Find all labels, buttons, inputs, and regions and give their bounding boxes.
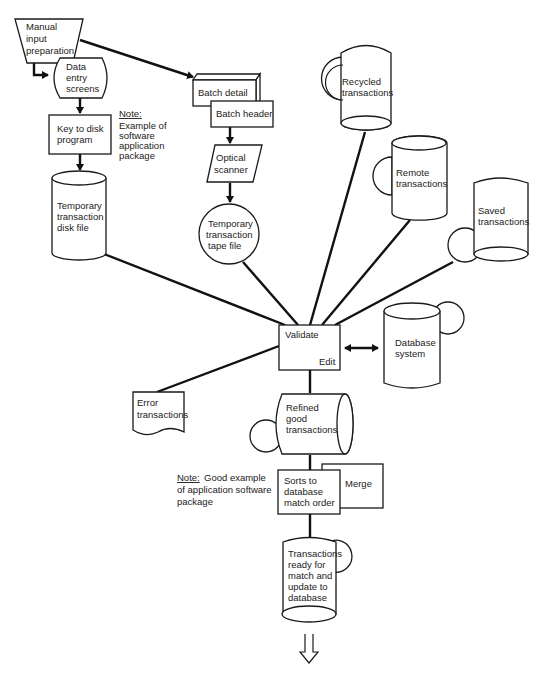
note2-line1: of application software (177, 484, 272, 495)
node-recycled-transactions: Recycled transactions (322, 46, 394, 131)
note2-title: Note: (177, 472, 200, 483)
recycled-line1: Recycled (342, 76, 381, 87)
edge-validate-to-error (157, 346, 279, 392)
node-batch-header: Batch header (211, 101, 273, 127)
key-to-disk-line1: Key to disk (57, 123, 104, 134)
temp-tape-line2: transaction (206, 229, 252, 240)
optical-scanner-line2: scanner (214, 164, 248, 175)
node-saved-transactions: Saved transactions (448, 178, 529, 262)
edit-label: Edit (319, 356, 336, 367)
sorts-line3: match order (284, 497, 335, 508)
validate-label: Validate (285, 329, 319, 340)
sorts-line2: database (284, 486, 323, 497)
note-good-example: Note: Good example of application softwa… (177, 472, 272, 507)
ready-line5: database (288, 592, 327, 603)
temp-disk-line1: Temporary (57, 200, 102, 211)
node-sorts-to-database-match-order: Sorts to database match order (278, 470, 340, 514)
note1-title: Note: (119, 108, 142, 119)
refined-line2: good (286, 413, 307, 424)
refined-line3: transactions (286, 424, 337, 435)
remote-line1: Remote (396, 167, 429, 178)
node-manual-input: Manual input preparation (15, 19, 83, 63)
error-line1: Error (137, 397, 158, 408)
node-optical-scanner: Optical scanner (207, 145, 262, 182)
error-line2: transactions (137, 409, 188, 420)
edge-manual-to-data-entry (34, 63, 48, 75)
note1-line4: package (119, 150, 155, 161)
saved-line2: transactions (478, 216, 529, 227)
temp-disk-line2: transaction (57, 211, 103, 222)
data-entry-line2: entry (66, 72, 87, 83)
node-temp-disk-file: Temporary transaction disk file (52, 171, 106, 260)
ready-line3: match and (288, 570, 332, 581)
manual-input-line1: Manual (26, 21, 57, 32)
temp-tape-line3: tape file (208, 240, 241, 251)
continue-down-arrow-icon (300, 634, 318, 663)
refined-line1: Refined (286, 402, 319, 413)
remote-line2: transactions (396, 178, 447, 189)
node-temp-tape-file: Temporary transaction tape file (199, 204, 259, 264)
key-to-disk-line2: program (57, 134, 92, 145)
database-line2: system (395, 348, 425, 359)
node-validate-edit: Validate Edit (279, 325, 340, 370)
batch-detail-label: Batch detail (198, 87, 248, 98)
note2-line2: package (177, 496, 213, 507)
data-entry-line3: screens (66, 83, 100, 94)
node-key-to-disk: Key to disk program (49, 115, 111, 154)
recycled-line2: transactions (342, 87, 393, 98)
flowchart: Manual input preparation Data entry scre… (0, 0, 548, 675)
edge-recycled-to-validate (310, 132, 365, 325)
note2-title-rest: Good example (204, 472, 266, 483)
ready-line4: update to (288, 581, 328, 592)
node-database-system: Database system (384, 302, 464, 388)
node-refined-good-transactions: Refined good transactions (250, 394, 353, 454)
database-line1: Database (395, 337, 436, 348)
ready-line2: ready for (288, 559, 326, 570)
data-entry-line1: Data (66, 61, 87, 72)
temp-tape-line1: Temporary (208, 218, 253, 229)
note-software-package: Note: Example of software application pa… (119, 108, 167, 161)
temp-disk-line3: disk file (57, 222, 89, 233)
merge-label: Merge (345, 478, 372, 489)
manual-input-line3: preparation (26, 45, 74, 56)
saved-line1: Saved (478, 205, 505, 216)
edge-tape-to-validate (243, 262, 298, 325)
node-error-transactions: Error transactions (133, 392, 188, 435)
node-transactions-ready: Transactions ready for match and update … (282, 538, 352, 623)
sorts-line1: Sorts to (284, 475, 317, 486)
edge-disk-to-validate (104, 254, 285, 325)
node-remote-transactions: Remote transactions (373, 136, 447, 220)
optical-scanner-line1: Optical (216, 152, 246, 163)
ready-line1: Transactions (288, 548, 342, 559)
manual-input-line2: input (26, 33, 47, 44)
batch-header-label: Batch header (216, 108, 273, 119)
node-data-entry-screens: Data entry screens (54, 58, 107, 98)
